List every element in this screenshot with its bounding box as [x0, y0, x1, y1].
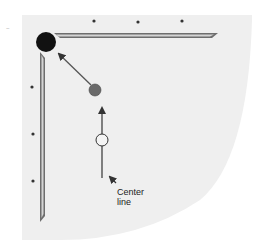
- billiards-diagram: ~ Center line: [0, 0, 260, 246]
- center-line-label: Center line: [117, 187, 144, 207]
- center-line-label-line1: Center: [117, 187, 144, 197]
- ghost-ball: [96, 134, 108, 146]
- top-rail: [54, 33, 218, 38]
- left-rail: [40, 52, 45, 222]
- rail-diamond: [92, 19, 95, 22]
- object-ball: [89, 84, 101, 96]
- corner-pocket: [36, 32, 56, 52]
- faint-mark: ~: [6, 25, 10, 31]
- center-line-label-line2: line: [117, 197, 144, 207]
- rail-diamond: [136, 20, 139, 23]
- rail-diamond: [31, 132, 34, 135]
- rail-diamond: [30, 85, 33, 88]
- diagram-canvas: ~: [0, 0, 260, 246]
- rail-diamond: [31, 179, 34, 182]
- rail-diamond: [180, 19, 183, 22]
